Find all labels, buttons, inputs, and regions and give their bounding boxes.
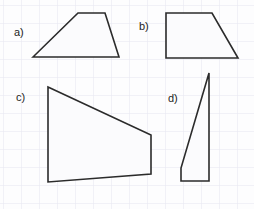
figure-a-polygon[interactable] [33,13,119,57]
figure-b-polygon[interactable] [166,13,238,58]
figure-c-polygon[interactable] [48,87,151,182]
figure-d-polygon[interactable] [181,73,209,181]
worksheet-canvas: a) b) c) d) [0,0,254,209]
figures-layer [0,0,254,209]
